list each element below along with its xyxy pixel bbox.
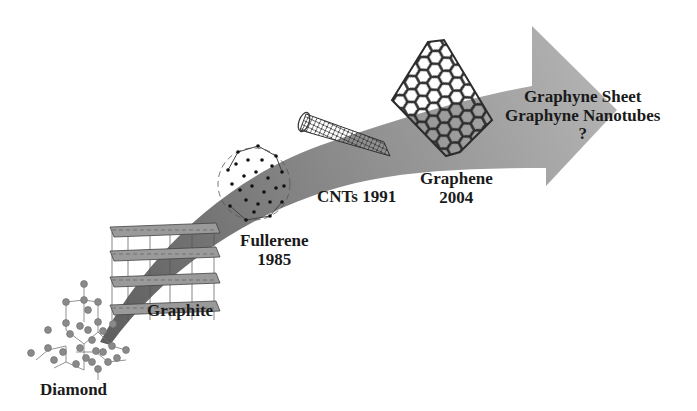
graphene-name: Graphene — [420, 170, 493, 189]
timeline-arrow — [100, 26, 617, 345]
graphene-label: Graphene 2004 — [420, 170, 493, 207]
carbon-allotrope-timeline: Diamond Graphite Fullerene 1985 CNTs 199… — [0, 0, 697, 411]
diamond-label: Diamond — [40, 381, 107, 400]
graphite-label: Graphite — [147, 302, 213, 321]
graphene-year: 2004 — [420, 189, 493, 208]
fullerene-name: Fullerene — [240, 232, 309, 251]
fullerene-year: 1985 — [240, 251, 309, 270]
graphyne-nanotubes-name: Graphyne Nanotubes — [505, 107, 660, 126]
cnts-label: CNTs 1991 — [317, 188, 396, 207]
graphyne-sheet-name: Graphyne Sheet — [505, 88, 660, 107]
graphyne-label: Graphyne Sheet Graphyne Nanotubes ? — [505, 88, 660, 144]
fullerene-label: Fullerene 1985 — [240, 232, 309, 269]
graphyne-year: ? — [505, 125, 660, 144]
